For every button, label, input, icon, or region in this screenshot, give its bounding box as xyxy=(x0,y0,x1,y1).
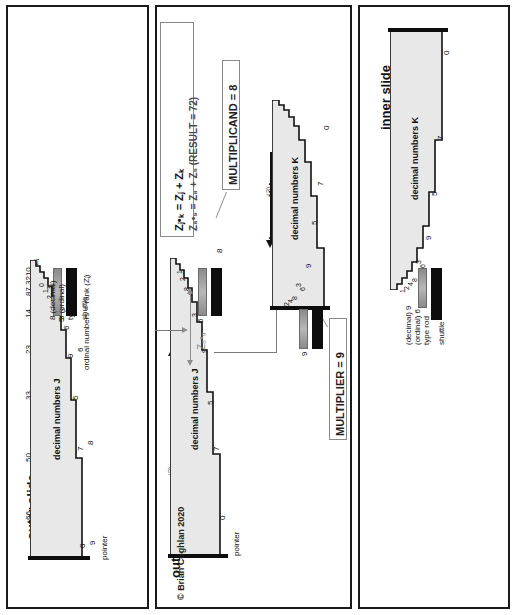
multiplicand-label: MULTIPLICAND = 8 xyxy=(227,85,239,185)
step-label: 0 xyxy=(322,126,331,130)
figure-canvas: outer slide logarithmic indexes Zⱼ 66 50… xyxy=(0,0,516,615)
step-label: 1 xyxy=(279,305,286,309)
left-shuttle-label: shuttle xyxy=(80,296,89,320)
inner-slide-body xyxy=(390,30,450,290)
step-label: 8 xyxy=(86,441,95,445)
right-ordinal-label: (ordinal) 6 xyxy=(413,309,422,345)
alignment-arrow-upper xyxy=(182,327,188,333)
multiplier-label: MULTIPLIER = 9 xyxy=(334,352,346,436)
step-label: 7 xyxy=(436,136,445,140)
middle-inner-body-label: decimal numbers K xyxy=(290,157,300,240)
multiplicand-box: MULTIPLICAND = 8 xyxy=(222,60,240,190)
step-label: 9 xyxy=(304,264,313,268)
right-decimal-label: (decimal) 9 xyxy=(404,305,413,345)
left-ordinal-value-label: 3 (ordinal) xyxy=(57,284,66,320)
z-sum-label: Z₈•₉ xyxy=(196,332,207,350)
step-label: 0 xyxy=(442,51,451,55)
alignment-hairline-lower xyxy=(214,352,276,353)
multiplier-box: MULTIPLIER = 9 xyxy=(329,318,347,440)
right-body-label: decimal numbers K xyxy=(410,117,420,200)
middle-inner-shuttle xyxy=(312,309,323,349)
middle-outer-body-label: decimal numbers J xyxy=(190,368,200,450)
outer-slide-base xyxy=(28,556,90,560)
left-body-label: decimal numbers J xyxy=(52,378,62,460)
step-label: 0 xyxy=(78,544,87,548)
middle-outer-type-rod xyxy=(198,268,207,316)
left-type-rod-label: type rod xyxy=(66,291,75,320)
alignment-hairline-upper xyxy=(155,330,183,331)
formula-line2: Z₈•₉ = Z₈ + Z₉ (RESULT = 72) xyxy=(188,97,199,231)
step-label: 7 xyxy=(316,182,325,186)
step-label: 6 xyxy=(299,287,306,291)
z-sum-arrow-head-down xyxy=(187,360,193,366)
step-label: 7 xyxy=(212,447,221,451)
middle-multiplicand-value: 8 xyxy=(215,249,224,253)
step-label: 3 xyxy=(295,283,302,287)
step-label: 1 xyxy=(176,270,183,274)
step-label: 7 xyxy=(76,447,85,451)
step-label: 5 xyxy=(206,401,215,405)
left-pointer-label: pointer xyxy=(100,536,109,560)
step-label: 9 xyxy=(88,541,97,545)
right-type-rod xyxy=(418,268,427,308)
left-decimal-label: 8 (decimal) xyxy=(48,280,57,320)
copyright: © Brian Coghlan 2020 xyxy=(176,507,186,600)
step-label: 3 xyxy=(191,313,198,317)
middle-inner-slide-body xyxy=(272,100,332,310)
step-label: 9 xyxy=(424,236,433,240)
z-sum-arrow-down xyxy=(190,332,191,362)
right-slide-base xyxy=(388,28,448,32)
step-label: 6 xyxy=(196,319,205,323)
z-sum-arrow-head-up xyxy=(187,288,193,294)
step-label: 1 xyxy=(399,289,406,293)
step-label: 5 xyxy=(71,396,80,400)
step-label: 0 xyxy=(218,516,227,520)
step-label: 6 xyxy=(76,348,85,352)
z-sum-arrow-up xyxy=(190,294,191,334)
step-label: 2 xyxy=(179,277,186,281)
right-type-rod-label: type rod xyxy=(422,316,431,345)
step-label: 6 xyxy=(62,326,71,330)
middle-multiplier-value: 9 xyxy=(300,352,309,356)
right-shuttle-label: shuttle xyxy=(437,321,446,345)
middle-pointer-label: pointer xyxy=(232,532,241,556)
step-label: 5 xyxy=(430,192,439,196)
middle-outer-shuttle xyxy=(211,268,222,316)
step-label: 3 xyxy=(415,260,422,264)
step-label: 9 xyxy=(66,354,75,358)
alignment-hairline-vertical xyxy=(276,310,277,353)
middle-inner-type-rod xyxy=(299,309,308,349)
step-label: 5 xyxy=(310,221,319,225)
right-shuttle xyxy=(431,268,442,320)
left-ordinal-label: ordinal numbers = rank (Zⱼ) xyxy=(82,275,91,370)
step-label: 0 xyxy=(38,283,45,287)
formula-box: Zⱼ•ₖ = Zⱼ + Zₖ Z₈•₉ = Z₈ + Z₉ (RESULT = … xyxy=(160,22,194,237)
formula-line1: Zⱼ•ₖ = Zⱼ + Zₖ xyxy=(173,168,186,231)
